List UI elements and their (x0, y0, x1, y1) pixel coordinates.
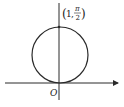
label-theta-denominator: 2 (76, 14, 80, 22)
label-close-paren: ) (81, 7, 86, 21)
circle-curve (32, 27, 88, 83)
label-theta-numerator: π (74, 5, 80, 13)
point-label: ( 1 , π 2 ) (62, 5, 86, 22)
polar-diagram: ( 1 , π 2 ) O (0, 0, 124, 107)
top-point (58, 26, 61, 29)
label-separator: , (71, 9, 74, 19)
origin-label: O (50, 88, 58, 98)
